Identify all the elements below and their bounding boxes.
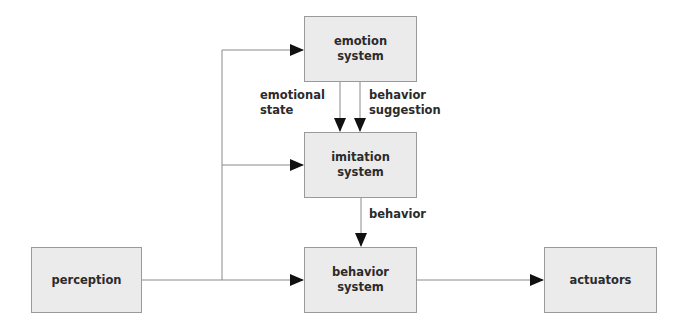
node-actuators: actuators xyxy=(544,247,657,313)
node-label: emotion system xyxy=(334,34,387,64)
edge-label-behavior-suggestion: behavior suggestion xyxy=(369,88,441,118)
node-behavior-system: behavior system xyxy=(304,247,417,313)
edge-label-emotional-state: emotional state xyxy=(260,88,325,118)
node-label: perception xyxy=(51,273,121,288)
node-emotion-system: emotion system xyxy=(304,16,417,82)
node-label: actuators xyxy=(570,273,632,288)
node-perception: perception xyxy=(31,247,142,313)
node-label: behavior system xyxy=(332,265,389,295)
edge-label-behavior: behavior xyxy=(369,207,426,222)
node-imitation-system: imitation system xyxy=(304,132,417,198)
node-label: imitation system xyxy=(331,150,390,180)
architecture-diagram: emotion system imitation system behavior… xyxy=(0,0,681,327)
